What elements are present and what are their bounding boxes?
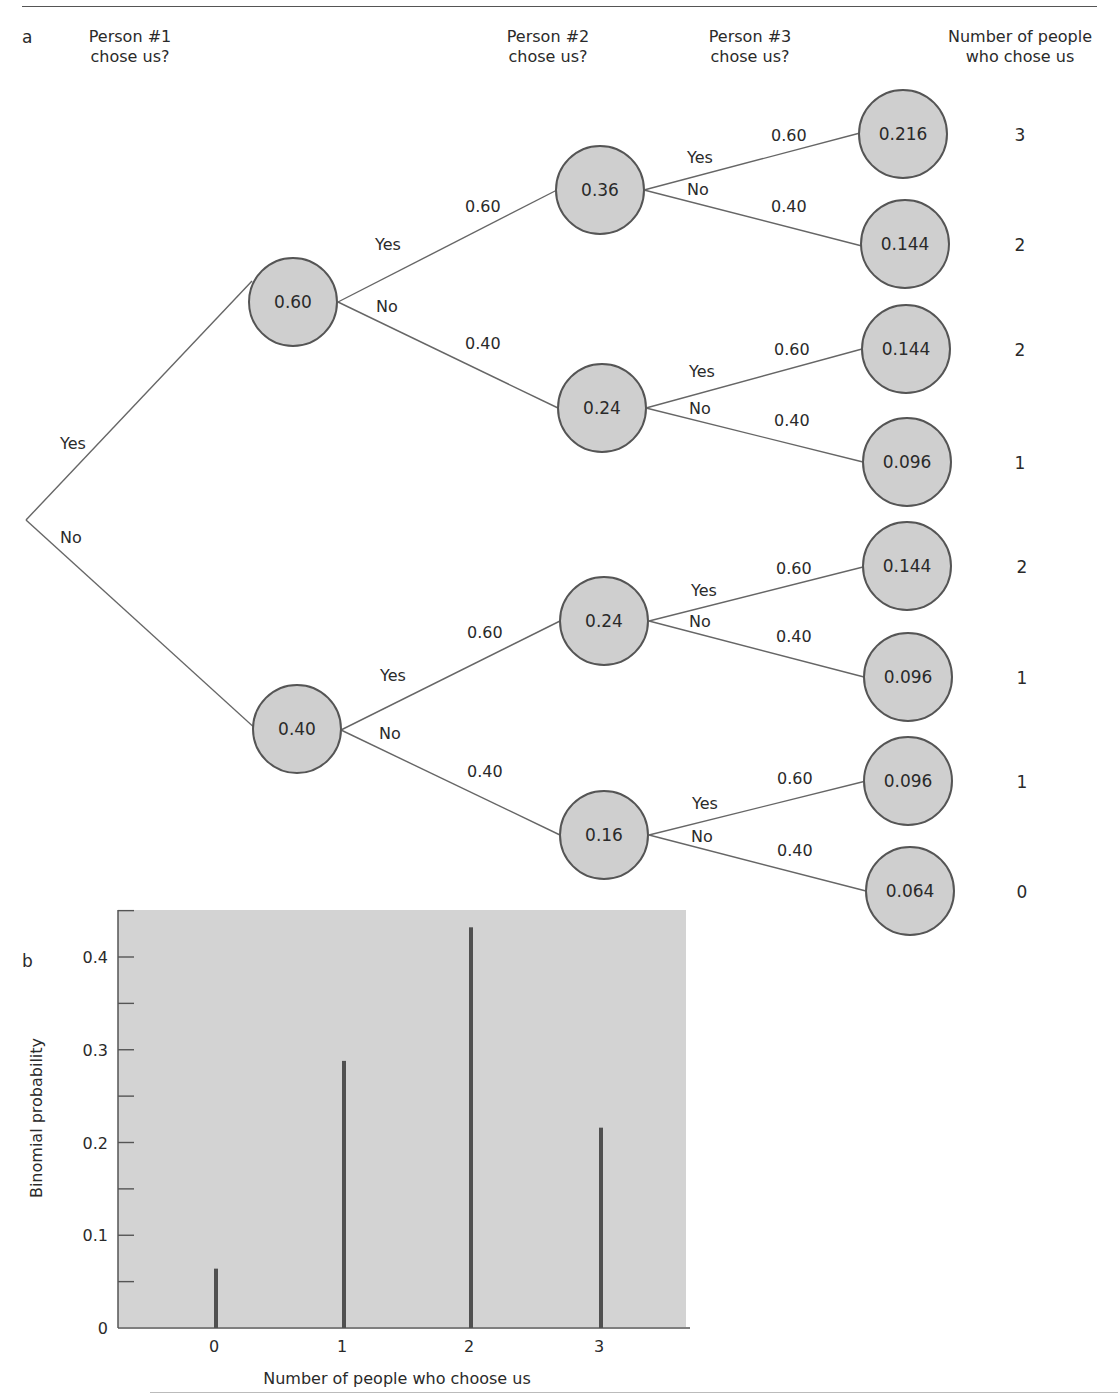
node-level2: 0.24 xyxy=(560,577,648,665)
branch-prob-yes: 0.60 xyxy=(774,340,810,359)
leaf-node: 0.144 2 xyxy=(863,522,1027,610)
x-tick-label: 3 xyxy=(594,1337,604,1356)
leaf-count: 2 xyxy=(1015,340,1026,360)
leaf-count: 3 xyxy=(1015,125,1026,145)
branch-prob-no: 0.40 xyxy=(776,627,812,646)
leaf-count: 1 xyxy=(1015,453,1026,473)
branch-label-no: No xyxy=(691,827,713,846)
bar xyxy=(342,1061,346,1328)
leaf-node: 0.144 2 xyxy=(862,305,1025,393)
node-level1-yes: 0.60 xyxy=(249,258,337,346)
y-tick-label: 0.4 xyxy=(83,948,108,967)
leaf-count: 2 xyxy=(1017,557,1028,577)
branch-prob-no: 0.40 xyxy=(774,411,810,430)
node-value: 0.216 xyxy=(879,124,928,144)
leaf-node: 0.064 0 xyxy=(866,847,1027,935)
panel-b-letter: b xyxy=(22,951,33,971)
x-tick-labels: 0123 xyxy=(209,1337,604,1356)
branch-label-yes: Yes xyxy=(688,362,715,381)
node-value: 0.144 xyxy=(881,234,930,254)
x-axis-label: Number of people who choose us xyxy=(263,1369,531,1388)
node-value: 0.36 xyxy=(581,180,619,200)
leaf-count: 2 xyxy=(1015,235,1026,255)
x-tick-label: 1 xyxy=(337,1337,347,1356)
bar xyxy=(469,927,473,1328)
node-level2: 0.24 xyxy=(558,364,646,452)
leaf-node: 0.216 3 xyxy=(859,90,1025,178)
branch-prob-yes: 0.60 xyxy=(777,769,813,788)
node-value: 0.24 xyxy=(583,398,621,418)
node-value: 0.24 xyxy=(585,611,623,631)
branch-label-yes: Yes xyxy=(374,235,401,254)
branch-prob-no: 0.40 xyxy=(777,841,813,860)
leaf-node: 0.096 1 xyxy=(864,737,1027,825)
branch-label-no: No xyxy=(689,399,711,418)
leaf-count: 1 xyxy=(1017,668,1028,688)
branch-prob-yes: 0.60 xyxy=(771,126,807,145)
branch-prob-yes: 0.60 xyxy=(467,623,503,642)
y-tick-label: 0.1 xyxy=(83,1226,108,1245)
leaf-count: 1 xyxy=(1017,772,1028,792)
chart-plot-area xyxy=(118,910,686,1327)
branch-prob-yes: 0.60 xyxy=(776,559,812,578)
branch-label-yes: Yes xyxy=(59,434,86,453)
y-ticks xyxy=(118,911,134,1282)
probability-tree: Yes No 0.60 0.40 Yes No 0.60 0.40 Yes No… xyxy=(0,0,1118,940)
leaf-node: 0.096 1 xyxy=(863,418,1025,506)
node-level2: 0.36 xyxy=(556,146,644,234)
bar xyxy=(599,1128,603,1328)
x-tick-label: 0 xyxy=(209,1337,219,1356)
node-level1-no: 0.40 xyxy=(253,685,341,773)
node-value: 0.096 xyxy=(883,452,932,472)
branch-label-no: No xyxy=(687,180,709,199)
branch-prob-no: 0.40 xyxy=(467,762,503,781)
node-value: 0.60 xyxy=(274,292,312,312)
branch-label-no: No xyxy=(376,297,398,316)
node-value: 0.40 xyxy=(278,719,316,739)
branch-prob-yes: 0.60 xyxy=(465,197,501,216)
node-value: 0.096 xyxy=(884,771,933,791)
bar xyxy=(214,1269,218,1328)
chart-bars xyxy=(214,927,603,1328)
y-tick-labels: 00.10.20.30.4 xyxy=(83,948,108,1338)
y-tick-label: 0.2 xyxy=(83,1134,108,1153)
branch-label-yes: Yes xyxy=(686,148,713,167)
tree-edges xyxy=(26,133,866,891)
node-value: 0.096 xyxy=(884,667,933,687)
node-value: 0.064 xyxy=(886,881,935,901)
x-tick-label: 2 xyxy=(464,1337,474,1356)
branch-prob-no: 0.40 xyxy=(465,334,501,353)
node-value: 0.144 xyxy=(882,339,931,359)
branch-label-yes: Yes xyxy=(691,794,718,813)
branch-label-no: No xyxy=(60,528,82,547)
y-tick-label: 0 xyxy=(98,1319,108,1338)
leaf-count: 0 xyxy=(1017,882,1028,902)
leaf-node: 0.096 1 xyxy=(864,633,1027,721)
node-value: 0.16 xyxy=(585,825,623,845)
node-value: 0.144 xyxy=(883,556,932,576)
leaf-node: 0.144 2 xyxy=(861,200,1025,288)
branch-label-no: No xyxy=(379,724,401,743)
branch-label-yes: Yes xyxy=(379,666,406,685)
node-level2: 0.16 xyxy=(560,791,648,879)
branch-label-no: No xyxy=(689,612,711,631)
branch-label-yes: Yes xyxy=(690,581,717,600)
y-axis-label: Binomial probability xyxy=(27,1038,46,1198)
branch-prob-no: 0.40 xyxy=(771,197,807,216)
y-tick-label: 0.3 xyxy=(83,1041,108,1060)
bottom-rule xyxy=(150,1392,1118,1393)
